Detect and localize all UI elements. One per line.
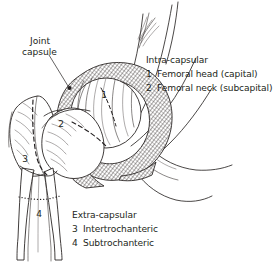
diagram-number-2: 2	[58, 119, 64, 129]
legend-extracapsular-label-4: Subtrochanteric	[83, 238, 154, 248]
hip-fracture-diagram: 1 2 3 4 Joint capsule Intra-capsular 1 F…	[0, 0, 276, 267]
anatomical-illustration: 1 2 3 4 Joint capsule Intra-capsular 1 F…	[0, 0, 276, 267]
diagram-number-1: 1	[101, 90, 107, 100]
legend-intracapsular-label-1: Femoral head (capital)	[157, 69, 258, 79]
legend-extracapsular-number-3: 3	[72, 224, 78, 234]
legend-intracapsular-label-2: Femoral neck (subcapital)	[157, 83, 272, 93]
legend-intracapsular-number-1: 1	[146, 69, 152, 79]
legend-intracapsular-number-2: 2	[146, 83, 152, 93]
legend-extracapsular-label-3: Intertrochanteric	[83, 224, 158, 234]
joint-capsule-label-line1: Joint	[29, 36, 51, 46]
joint-capsule-label-line2: capsule	[22, 47, 57, 57]
legend-extracapsular-heading: Extra-capsular	[72, 210, 137, 220]
legend-extracapsular-number-4: 4	[72, 238, 78, 248]
diagram-number-3: 3	[22, 154, 28, 164]
leader-dot	[67, 86, 71, 90]
legend-intracapsular-heading: Intra-capsular	[146, 55, 208, 65]
diagram-number-4: 4	[36, 209, 42, 219]
